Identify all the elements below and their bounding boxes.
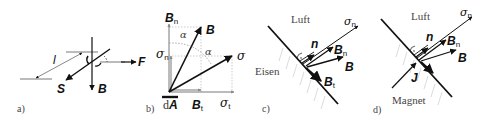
angle-alpha-2: α: [205, 47, 212, 57]
upper-medium-label-c: Luft: [291, 14, 310, 25]
normal-label-d: n: [426, 31, 433, 43]
caption-d: d): [373, 105, 381, 115]
upper-medium-label-d: Luft: [411, 11, 430, 22]
lower-medium-label-c: Eisen: [255, 66, 279, 77]
panel-b-graphics: [162, 24, 234, 97]
panel-a-graphics: [20, 37, 125, 90]
angle-alpha-1: α: [180, 30, 187, 40]
normal-label-c: n: [311, 38, 318, 50]
stress-tangential-label-b: σt: [220, 97, 230, 111]
area-element-label: dA: [163, 99, 178, 111]
caption-b: b): [146, 104, 154, 114]
force-label: F: [138, 56, 145, 68]
current-density-label-d: J: [411, 72, 418, 84]
field-normal-label-b: Bn: [165, 12, 178, 26]
field-label-d: B: [458, 52, 467, 64]
lower-medium-label-d: Magnet: [392, 95, 426, 106]
stress-normal-label-b: σn: [156, 48, 169, 62]
field-tangential-label-c: Bt: [324, 76, 335, 90]
stress-normal-label-c: σn: [344, 16, 356, 29]
field-label-a: B: [98, 83, 107, 95]
field-tangential-label-b: Bt: [192, 99, 203, 113]
field-normal-label-d: Bn: [447, 35, 460, 49]
caption-a: a): [17, 104, 25, 114]
conductor-direction-label: S: [57, 83, 65, 95]
field-normal-label-c: Bn: [334, 44, 347, 58]
magnetic-stress-diagram: l F S B a) Bn B σn σ α α dA Bt σt b) Luf…: [0, 0, 489, 121]
length-label: l: [53, 54, 56, 66]
field-label-b: B: [206, 24, 215, 36]
caption-c: c): [262, 104, 270, 114]
stress-label-b: σ: [237, 50, 245, 62]
field-label-c: B: [345, 61, 354, 73]
stress-normal-label-d: σn: [460, 7, 472, 20]
